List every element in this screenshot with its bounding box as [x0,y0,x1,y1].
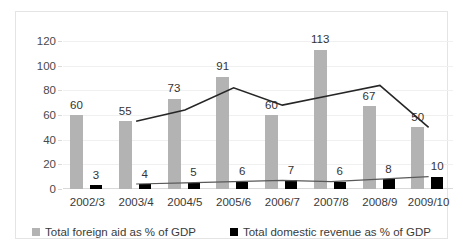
bar-foreign-aid[interactable]: 73 [168,99,181,189]
bar-value-label: 50 [411,112,424,124]
bar-foreign-aid[interactable]: 113 [314,50,327,189]
y-axis-tick-mark [58,90,62,91]
bar-domestic-revenue[interactable]: 4 [139,184,151,189]
legend-swatch-icon [32,228,40,236]
bar-foreign-aid[interactable]: 91 [216,77,229,189]
bar-value-label: 73 [168,83,181,95]
bar-foreign-aid[interactable]: 50 [411,127,424,189]
y-axis-tick-mark [58,115,62,116]
y-axis-tick-label: 80 [43,84,56,96]
bar-foreign-aid[interactable]: 55 [119,121,132,189]
bar-foreign-aid[interactable]: 67 [363,106,376,189]
legend-label: Total foreign aid as % of GDP [45,226,196,238]
bar-domestic-revenue[interactable]: 6 [236,182,248,189]
bar-value-label: 7 [288,165,294,177]
y-axis-tick-label: 120 [37,35,56,47]
plot-area: 020406080100120 6032002/35542003/4735200… [63,41,453,189]
bar-value-label: 5 [190,167,196,179]
bar-group: 7352004/5 [161,41,210,189]
x-axis-category-label: 2007/8 [314,196,349,208]
x-axis-category-label: 2004/5 [167,196,202,208]
bar-group: 5542003/4 [112,41,161,189]
y-axis-tick-label: 40 [43,134,56,146]
legend-item[interactable]: Total foreign aid as % of GDP [32,226,196,238]
bar-value-label: 6 [239,166,245,178]
y-axis-tick-mark [58,66,62,67]
bar-value-label: 55 [119,106,132,118]
bar-domestic-revenue[interactable]: 7 [285,180,297,189]
y-axis-tick-label: 0 [50,183,56,195]
x-axis-category-label: 2003/4 [119,196,154,208]
bar-value-label: 6 [337,166,343,178]
bar-value-label: 60 [265,100,278,112]
legend-swatch-icon [230,228,238,236]
y-axis-tick-mark [58,140,62,141]
y-axis-tick-mark [58,41,62,42]
bar-value-label: 67 [363,91,376,103]
y-axis-tick-mark [58,189,62,190]
bar-group: 11362007/8 [307,41,356,189]
bar-value-label: 4 [142,169,148,181]
legend-item[interactable]: Total domestic revenue as % of GDP [230,226,431,238]
y-axis-tick-label: 20 [43,158,56,170]
x-axis-category-label: 2002/3 [70,196,105,208]
bar-foreign-aid[interactable]: 60 [265,115,278,189]
bar-group: 9162005/6 [209,41,258,189]
bar-domestic-revenue[interactable]: 10 [431,177,443,189]
bar-domestic-revenue[interactable]: 6 [334,182,346,189]
bar-group: 6782008/9 [356,41,405,189]
y-axis-tick-label: 60 [43,109,56,121]
x-axis-category-label: 2009/10 [408,196,450,208]
bar-value-label: 60 [70,100,83,112]
chart-legend: Total foreign aid as % of GDPTotal domes… [16,226,447,238]
bar-value-label: 91 [216,61,229,73]
bar-group: 6072006/7 [258,41,307,189]
bar-domestic-revenue[interactable]: 5 [188,183,200,189]
x-axis-category-label: 2008/9 [362,196,397,208]
chart-container: 020406080100120 6032002/35542003/4735200… [15,11,448,239]
bar-domestic-revenue[interactable]: 8 [383,179,395,189]
x-axis-category-label: 2006/7 [265,196,300,208]
bar-value-label: 8 [385,164,391,176]
y-axis-tick-label: 100 [37,60,56,72]
y-axis-tick-mark [58,164,62,165]
x-axis-category-label: 2005/6 [216,196,251,208]
bar-value-label: 10 [431,161,444,173]
bar-domestic-revenue[interactable]: 3 [90,185,102,189]
bar-foreign-aid[interactable]: 60 [70,115,83,189]
bar-value-label: 3 [93,170,99,182]
legend-label: Total domestic revenue as % of GDP [243,226,431,238]
bar-group: 50102009/10 [404,41,453,189]
bar-group: 6032002/3 [63,41,112,189]
bar-value-label: 113 [311,34,329,46]
